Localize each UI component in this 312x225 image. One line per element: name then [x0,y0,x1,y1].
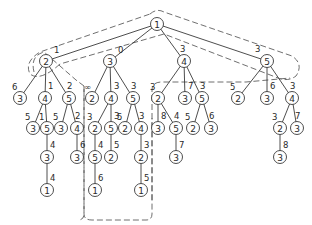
edge-cost-label: 5 [230,82,235,92]
node-label: 3 [30,124,36,134]
edge-cost-label: 3 [139,111,144,121]
edge-cost-label: 5 [185,112,190,122]
tree-node: 4 [135,122,148,135]
tree-node: 5 [261,55,274,68]
tree-node: 5 [63,92,76,105]
node-label: 2 [155,94,161,104]
root-node: 1 [151,18,164,31]
edge-cost-label: 6 [80,140,85,150]
node-label: 4 [108,94,114,104]
node-label: 3 [17,94,23,104]
node-label: 5 [66,94,72,104]
tree-node: 5 [196,92,209,105]
edge-cost-label: 5 [53,112,58,122]
edge-cost-label: 2 [75,111,80,121]
edge-cost-label: 1 [48,81,53,91]
tree-node: 3 [205,122,218,135]
tree-node: 4 [286,92,299,105]
tree-node: 1 [89,184,102,197]
node-label: 5 [108,124,114,134]
edge-cost-label: 8 [161,111,166,121]
tree-node: 3 [274,151,287,164]
node-label: 3 [173,153,179,163]
edge-cost-label: 1 [39,112,44,122]
tree-node: 2 [105,151,118,164]
edge-cost-label: 3 [114,81,119,91]
edge-cost-label: 3 [144,140,149,150]
node-label: 5 [130,94,136,104]
node-label: 4 [289,94,295,104]
tree-node: 3 [71,151,84,164]
node-label: 2 [92,124,98,134]
edge-cost-label: 3 [87,112,92,122]
edge-cost-label: 3 [131,81,136,91]
edge-cost-label: 5 [25,112,30,122]
node-label: 3 [277,153,283,163]
node-label: 5 [173,124,179,134]
node-label: 4 [74,124,80,134]
tree-node: 4 [39,92,52,105]
node-label: 4 [138,124,144,134]
tree-node: 3 [104,55,117,68]
node-label: 3 [264,94,270,104]
node-label: 2 [190,124,196,134]
tree-edge [46,24,157,61]
node-label: 2 [277,124,283,134]
edge-cost-label: 3 [200,81,205,91]
node-label: 2 [138,153,144,163]
tree-node: 5 [41,122,54,135]
node-label: 5 [44,124,50,134]
edge-cost-label: 3 [272,112,277,122]
tree-node: 2 [232,92,245,105]
tree-node: 4 [71,122,84,135]
search-tree-diagram: 1033612∞33373563515233538456374645378465… [0,0,312,225]
tree-node: 3 [291,122,304,135]
node-label: 3 [44,153,50,163]
edge-cost-label: 8 [283,140,288,150]
tree-node: 3 [41,151,54,164]
node-label: 2 [235,94,241,104]
tree-node: 3 [27,122,40,135]
node-label: 2 [108,153,114,163]
tree-node: 2 [119,122,132,135]
edge-cost-label: 0 [118,45,123,55]
node-label: 1 [44,186,50,196]
node-label: 5 [264,57,270,67]
edge-cost-label: 6 [12,82,17,92]
node-label: 2 [89,94,95,104]
node-label: 2 [43,57,49,67]
edge-cost-label: 5 [114,140,119,150]
tree-node: 5 [105,122,118,135]
tree-edge [238,61,267,98]
edge-cost-label: 3 [150,82,155,92]
tree-node: 3 [55,122,68,135]
node-label: 1 [138,186,144,196]
edge-cost-label: 3 [290,81,295,91]
edge-cost-label: 4 [174,111,179,121]
edge-cost-label: 6 [98,173,103,183]
tree-edge [157,24,267,61]
tree-node: 3 [14,92,27,105]
tree-node: 5 [127,92,140,105]
edge-cost-label: 5 [117,112,122,122]
node-label: 3 [294,124,300,134]
tree-node: 2 [86,92,99,105]
edge-cost-label: 4 [98,140,103,150]
node-label: 3 [182,94,188,104]
node-label: 4 [42,94,48,104]
tree-node: 3 [261,92,274,105]
node-label: 3 [208,124,214,134]
node-label: 3 [58,124,64,134]
tree-node: 2 [89,122,102,135]
tree-node: 2 [40,55,53,68]
edge-cost-label: 7 [188,81,193,91]
node-label: 1 [92,186,98,196]
tree-node: 2 [274,122,287,135]
node-label: 3 [74,153,80,163]
edge-cost-label: 2 [67,81,72,91]
tree-node: 1 [135,184,148,197]
node-label: 3 [155,124,161,134]
node-label: 4 [181,57,187,67]
edge-cost-label: 7 [179,140,184,150]
tree-node: 5 [170,122,183,135]
